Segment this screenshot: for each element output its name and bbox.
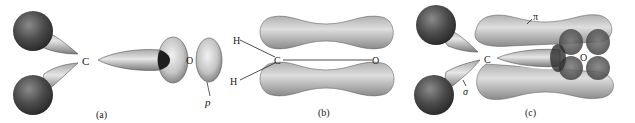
panel-c: O C π σ (c): [414, 5, 614, 119]
caption-c: (c): [525, 107, 536, 119]
h-s-orbital-upper: [13, 11, 53, 51]
h-s-orbital-upper: [416, 5, 456, 45]
h-s-orbital-lower: [13, 75, 53, 115]
oxygen-lobe-left-dark: [550, 44, 566, 72]
pi-lobe-lower: [260, 62, 394, 96]
caption-a: (a): [96, 109, 107, 121]
bond-label-sigma: σ: [463, 86, 469, 97]
oxygen-lobe-ur: [586, 29, 610, 55]
caption-b: (b): [318, 107, 330, 119]
orbital-diagram: C O p (a) H H C O (b): [0, 0, 635, 123]
atom-label-carbon: C: [274, 55, 281, 66]
oxygen-lobe-lr: [586, 56, 610, 80]
pi-lobe-upper: [260, 16, 393, 49]
h-s-orbital-lower: [414, 75, 454, 115]
oxygen-lobe-right: [196, 38, 222, 82]
atom-label-h-lower: H: [230, 76, 237, 87]
bond-label-pi: π: [533, 11, 538, 22]
atom-label-oxygen: O: [580, 52, 587, 63]
panel-b: H H C O (b): [230, 16, 394, 119]
sp2-lobe-co: [98, 49, 160, 70]
orbital-figure: C O p (a) H H C O (b): [0, 0, 635, 123]
atom-label-oxygen: O: [372, 55, 379, 66]
orbital-label-p: p: [204, 96, 211, 108]
atom-label-carbon: C: [484, 54, 491, 65]
atom-label-carbon: C: [82, 55, 89, 67]
p-orbital-pointer: [207, 82, 210, 96]
atom-label-oxygen: O: [186, 55, 193, 66]
panel-a: C O p (a): [13, 11, 222, 121]
atom-label-h-upper: H: [233, 35, 240, 46]
